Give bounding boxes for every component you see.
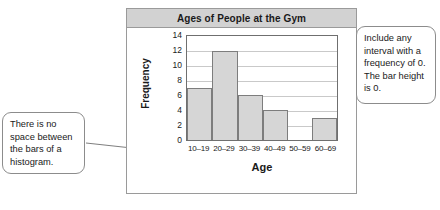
y-axis-ticks: 14 12 10 8 6 4 2 0 [158,28,182,148]
bar-20–29 [212,51,237,140]
y-tick: 12 [160,45,182,55]
x-axis-ticks: 10–1920–2930–3940–4950–5960–69 [186,144,338,153]
y-tick: 4 [160,105,182,115]
y-tick: 6 [160,90,182,100]
chart-title-bar: Ages of People at the Gym [127,9,356,28]
x-tick: 10–19 [186,144,211,153]
x-tick: 50–59 [287,144,312,153]
bar-30–39 [238,95,263,140]
x-tick: 30–39 [237,144,262,153]
bar-10–19 [187,88,212,140]
bar-60–69 [312,118,337,140]
y-tick: 0 [160,135,182,145]
y-axis-label: Frequency [140,45,151,123]
y-tick: 10 [160,60,182,70]
chart-panel: Ages of People at the Gym Frequency 14 1… [126,8,357,194]
figure-stage: Ages of People at the Gym Frequency 14 1… [0,0,440,210]
bar-group [187,36,337,140]
plot-wrapper: Frequency 14 12 10 8 6 4 2 0 10–1920 [127,28,358,194]
chart-title: Ages of People at the Gym [177,13,306,24]
x-tick: 20–29 [211,144,236,153]
x-tick: 60–69 [313,144,338,153]
x-axis-label: Age [186,161,338,173]
y-tick: 14 [160,30,182,40]
bar-40–49 [263,110,288,140]
callout-no-space: There is no space between the bars of a … [2,112,85,174]
x-tick: 40–49 [262,144,287,153]
callout-zero-frequency: Include any interval with a frequency of… [356,26,436,104]
y-tick: 8 [160,75,182,85]
y-tick: 2 [160,120,182,130]
plot-area [186,35,338,141]
